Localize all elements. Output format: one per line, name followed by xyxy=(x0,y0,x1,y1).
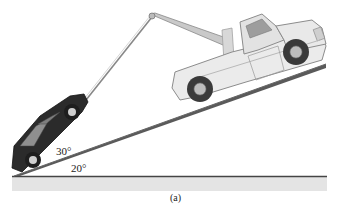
boom xyxy=(149,13,234,62)
cable-angle-label: 30° xyxy=(56,145,71,157)
ground-band xyxy=(12,177,327,191)
incline-angle-label: 20° xyxy=(71,162,86,174)
tow-cable-inner xyxy=(84,16,150,99)
tow-cable xyxy=(86,17,152,100)
figure-caption: (a) xyxy=(170,192,181,203)
tow-truck-diagram xyxy=(0,0,341,216)
towed-car xyxy=(12,94,88,172)
